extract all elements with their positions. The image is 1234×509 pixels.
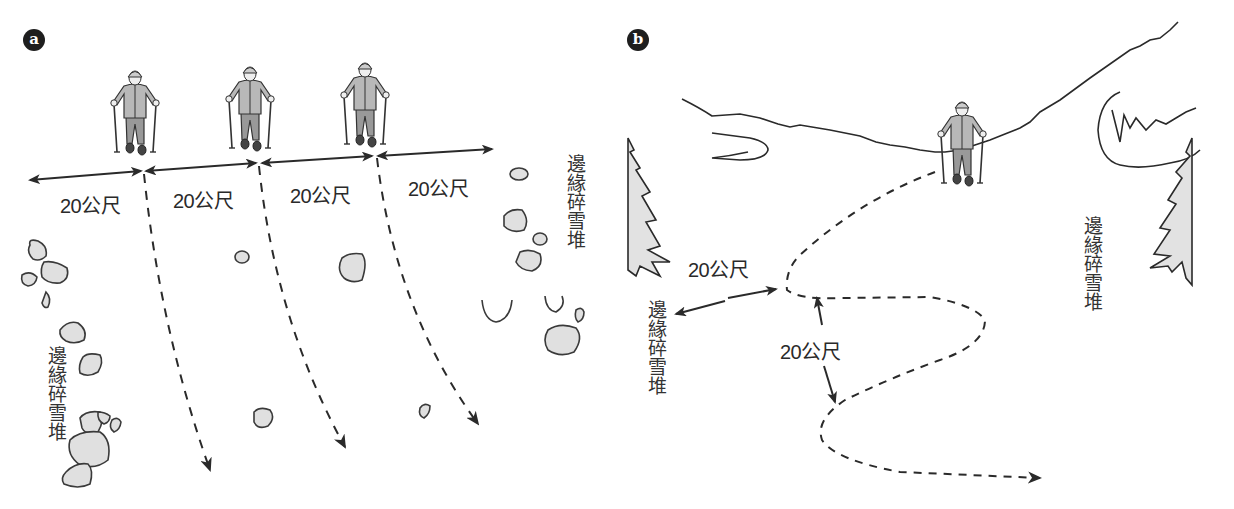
tree-right bbox=[1150, 138, 1192, 285]
edge-debris-label: 邊緣碎雪堆 bbox=[44, 346, 66, 441]
distance-label: 20公尺 bbox=[688, 254, 748, 283]
edge-debris-label: 邊緣碎雪堆 bbox=[644, 300, 666, 395]
distance-label: 20公尺 bbox=[408, 173, 468, 202]
edge-debris-label: 邊緣碎雪堆 bbox=[1080, 216, 1102, 311]
distance-label: 20公尺 bbox=[173, 185, 233, 214]
panel-a-badge: a bbox=[23, 29, 45, 51]
distance-label: 20公尺 bbox=[60, 190, 120, 219]
panel-b bbox=[628, 22, 1200, 478]
skier-figure-3 bbox=[341, 63, 389, 147]
switchback-path bbox=[787, 172, 1040, 478]
panel-a bbox=[22, 63, 584, 487]
diagram-canvas bbox=[0, 0, 1234, 509]
panel-b-badge: b bbox=[627, 29, 649, 51]
tree-left bbox=[628, 138, 670, 276]
skier-figure-1 bbox=[111, 71, 159, 155]
debris-scatter bbox=[235, 251, 430, 427]
distance-label: 20公尺 bbox=[290, 180, 350, 209]
edge-debris-label: 邊緣碎雪堆 bbox=[563, 154, 585, 249]
debris-piles-left bbox=[22, 240, 121, 487]
distance-label: 20公尺 bbox=[780, 336, 840, 365]
skier-figure-2 bbox=[226, 67, 274, 151]
